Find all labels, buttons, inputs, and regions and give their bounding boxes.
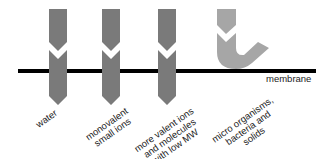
arrow-rejected-u-turn <box>217 9 269 69</box>
arrow-monovalent <box>102 9 120 105</box>
arrow-multivalent <box>158 9 176 105</box>
arrow-water <box>49 9 67 105</box>
membrane-label: membrane <box>266 73 311 84</box>
